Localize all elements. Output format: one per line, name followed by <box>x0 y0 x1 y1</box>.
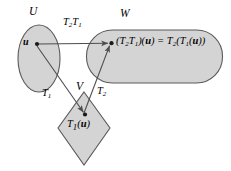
formula-composition: (T2T1)(u) = T2(T1(u)) <box>116 36 205 47</box>
region-label-u: U <box>29 6 37 18</box>
region-label-w: W <box>120 8 130 20</box>
diagram-canvas: U W V u T1(u) (T2T1)(u) = T2(T1(u)) T2T1… <box>0 0 231 171</box>
formula-rhs-t2-sub: 2 <box>173 40 176 47</box>
arrow-label-composite: T2T1 <box>63 17 82 28</box>
t2-sub: 2 <box>103 90 106 97</box>
formula-equals: = <box>154 35 166 46</box>
point-u-dot <box>35 42 39 46</box>
point-t2t1u-dot <box>109 41 113 45</box>
formula-lhs-t1: T <box>129 35 135 46</box>
diagram-svg <box>0 0 231 171</box>
formula-rhs-t1-sub: 1 <box>185 40 188 47</box>
composite-sub-second: 1 <box>78 21 81 28</box>
t1u-close: ) <box>87 118 91 129</box>
arrow-composite-t2t1 <box>38 43 108 44</box>
point-t1u-dot <box>83 112 87 116</box>
t1-T: T <box>42 87 48 98</box>
composite-sub-first: 2 <box>69 21 72 28</box>
formula-rhs-t2: T <box>167 35 173 46</box>
region-label-v: V <box>76 81 83 93</box>
formula-lhs-t2-sub: 2 <box>125 40 128 47</box>
formula-lhs-t1-sub: 1 <box>135 40 138 47</box>
point-label-u: u <box>23 37 29 47</box>
t2-T: T <box>97 85 103 96</box>
arrow-label-t2: T2 <box>97 86 106 97</box>
point-label-t1u: T1(u) <box>67 119 90 132</box>
composite-t-first: T <box>63 16 69 27</box>
formula-rhs-close: )) <box>198 35 205 46</box>
arrow-label-t1: T1 <box>42 88 51 99</box>
t1-sub: 1 <box>48 92 51 99</box>
